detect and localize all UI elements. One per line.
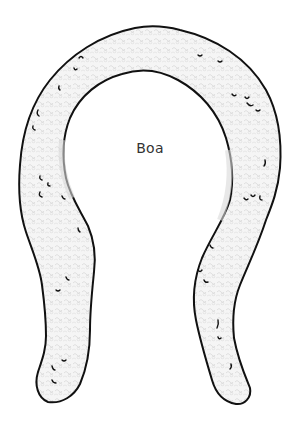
boa-label: Boa	[130, 140, 170, 156]
boa-illustration: Boa	[0, 0, 294, 428]
boa-body	[19, 26, 280, 404]
boa-drawing	[0, 0, 294, 428]
